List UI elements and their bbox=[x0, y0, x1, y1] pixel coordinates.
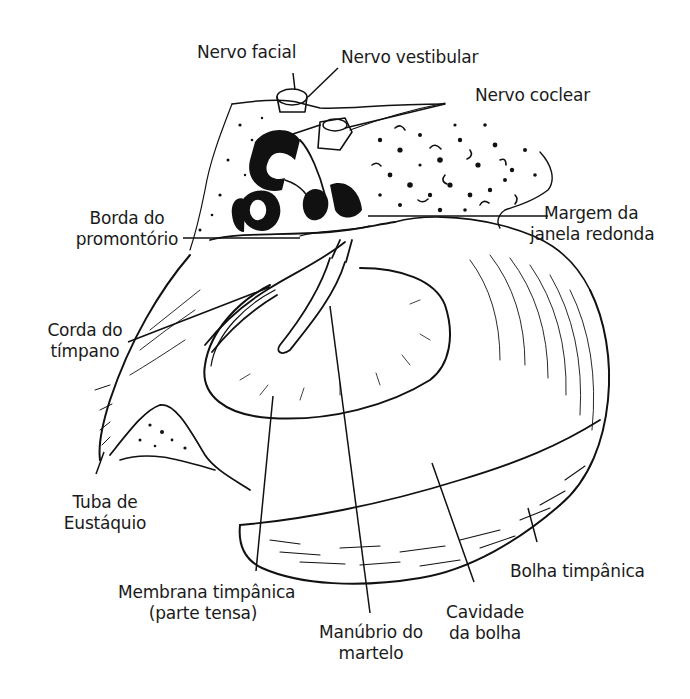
tympanic-membrane bbox=[204, 268, 450, 419]
label-text: Margem da bbox=[530, 203, 654, 224]
label-text: Manúbrio do bbox=[316, 622, 426, 643]
label-text: Eustáquio bbox=[60, 513, 150, 534]
label-membrana-timpanica: Membrana timpânica (parte tensa) bbox=[118, 582, 288, 624]
label-nervo-facial: Nervo facial bbox=[197, 42, 296, 63]
label-cavidade-bolha: Cavidade da bolha bbox=[440, 602, 530, 644]
eustachian-tube bbox=[95, 385, 250, 490]
label-text: tímpano bbox=[38, 341, 132, 362]
label-margem-janela-redonda: Margem da janela redonda bbox=[530, 203, 654, 245]
label-bolha-timpanica: Bolha timpânica bbox=[510, 561, 645, 582]
label-text: Tuba de bbox=[60, 492, 150, 513]
label-corda-timpano: Corda do tímpano bbox=[38, 320, 132, 362]
label-text: janela redonda bbox=[530, 224, 654, 245]
label-nervo-vestibular: Nervo vestibular bbox=[341, 47, 478, 68]
label-text: da bolha bbox=[440, 623, 530, 644]
nerves-cochlea bbox=[232, 89, 362, 232]
label-text: Bolha timpânica bbox=[510, 561, 645, 582]
ear-anatomy-figure: Nervo facial Nervo vestibular Nervo cocl… bbox=[0, 0, 690, 699]
label-text: martelo bbox=[316, 643, 426, 664]
label-text: Membrana timpânica bbox=[118, 582, 288, 603]
label-text: Nervo facial bbox=[197, 42, 296, 63]
malleus-handle bbox=[278, 240, 352, 353]
label-text: Nervo coclear bbox=[475, 85, 590, 106]
bulla-wall bbox=[99, 255, 609, 584]
label-tuba-eustaquio: Tuba de Eustáquio bbox=[60, 492, 150, 534]
label-borda-promontorio: Borda do promontório bbox=[72, 208, 182, 250]
label-text: promontório bbox=[72, 229, 182, 250]
label-text: (parte tensa) bbox=[118, 603, 288, 624]
label-text: Nervo vestibular bbox=[341, 47, 478, 68]
petrous-bone bbox=[190, 100, 552, 250]
label-text: Corda do bbox=[38, 320, 132, 341]
label-manubrio-martelo: Manúbrio do martelo bbox=[316, 622, 426, 664]
label-text: Borda do bbox=[72, 208, 182, 229]
chorda-tympani bbox=[205, 242, 345, 352]
leader-lines bbox=[96, 68, 548, 613]
label-text: Cavidade bbox=[440, 602, 530, 623]
label-nervo-coclear: Nervo coclear bbox=[475, 85, 590, 106]
